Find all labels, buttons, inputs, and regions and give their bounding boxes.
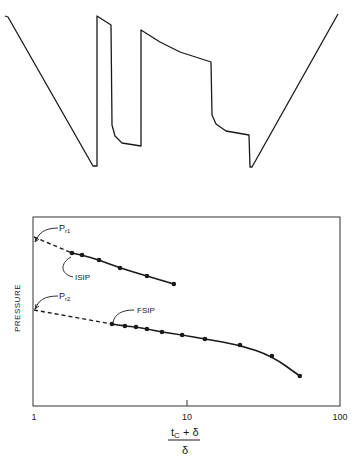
figure: 1 10 100 PRESSURE tC + δ δ Pr1 ISIP [0,0,355,462]
data-point [123,324,128,329]
x-axis-label: tC + δ δ [168,426,200,456]
data-point [97,258,102,263]
x-tick-1: 1 [31,412,36,422]
extrapolation-line [34,237,72,253]
x-tick-100: 100 [332,412,347,422]
svg-text:FSIP: FSIP [137,306,155,315]
data-point [145,327,150,332]
pr2-annotation: Pr2 [35,291,71,309]
data-point [110,322,115,327]
data-point [270,354,275,359]
pr1-annotation: Pr1 [35,223,71,242]
data-point [297,374,302,379]
data-point [160,330,165,335]
plot-frame [33,217,340,406]
extrapolation-line [34,310,112,324]
svg-text:δ: δ [182,444,188,456]
data-point [203,337,208,342]
data-point [145,274,150,279]
data-point [118,266,123,271]
data-point [180,333,185,338]
pressure-time-trace [5,14,338,167]
isip-annotation: ISIP [63,257,90,282]
x-tick-10: 10 [182,412,192,422]
data-point [172,282,177,287]
fsip-annotation: FSIP [113,306,155,322]
data-point [134,325,139,330]
svg-text:tC + δ: tC + δ [171,426,199,440]
fsip-series [34,310,302,378]
data-point [80,253,85,258]
svg-text:ISIP: ISIP [75,273,90,282]
horner-plot: 1 10 100 PRESSURE tC + δ δ Pr1 ISIP [13,217,348,456]
isip-series [34,237,176,286]
data-point [70,251,75,256]
series-line [112,324,300,376]
data-point [238,343,243,348]
svg-text:Pr2: Pr2 [59,291,71,302]
y-axis-label: PRESSURE [13,284,22,332]
svg-text:Pr1: Pr1 [59,223,71,234]
